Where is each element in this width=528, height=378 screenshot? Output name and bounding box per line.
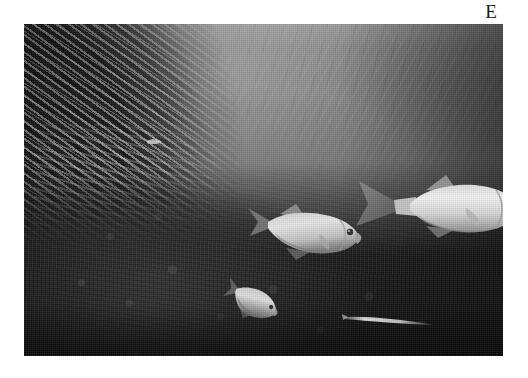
stray-baitfish — [146, 137, 164, 147]
needlefish — [342, 309, 442, 331]
underwater-reef-photograph — [24, 24, 503, 356]
trevally-middle — [246, 202, 368, 268]
figure-root: E — [0, 0, 528, 378]
trevally-large — [354, 164, 503, 254]
panel-label: E — [478, 0, 504, 24]
